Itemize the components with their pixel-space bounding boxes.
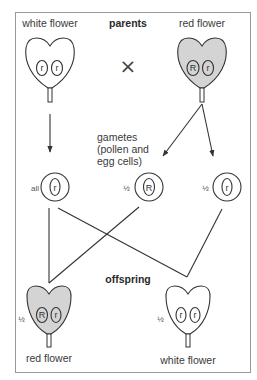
svg-text:R: R [39, 310, 46, 320]
svg-text:r: r [194, 310, 197, 320]
svg-text:egg cells): egg cells) [97, 155, 142, 167]
svg-text:r: r [54, 183, 57, 193]
svg-text:½: ½ [202, 184, 209, 193]
parents-heading: parents [109, 17, 147, 29]
offspring-left-label: red flower [26, 352, 73, 364]
svg-text:r: r [55, 310, 58, 320]
allele-R: R [190, 63, 197, 73]
svg-text:½: ½ [123, 184, 130, 193]
svg-text:gametes: gametes [97, 131, 137, 143]
parent-left-label: white flower [21, 17, 78, 29]
allele-r: r [56, 63, 59, 73]
cross-symbol: × [120, 54, 137, 78]
parent-right-label: red flower [179, 17, 226, 29]
svg-text:r: r [226, 183, 229, 193]
svg-text:(pollen and: (pollen and [97, 143, 149, 155]
offspring-right-label: white flower [159, 354, 216, 366]
svg-text:½: ½ [18, 315, 25, 324]
allele-r: r [207, 63, 210, 73]
allele-r: r [41, 63, 44, 73]
offspring-heading: offspring [105, 273, 151, 285]
svg-text:R: R [146, 183, 153, 193]
svg-text:½: ½ [157, 315, 164, 324]
genetics-cross-diagram: white flower parents red flower r r × R … [0, 0, 257, 380]
svg-text:all: all [31, 184, 39, 193]
svg-text:r: r [180, 310, 183, 320]
